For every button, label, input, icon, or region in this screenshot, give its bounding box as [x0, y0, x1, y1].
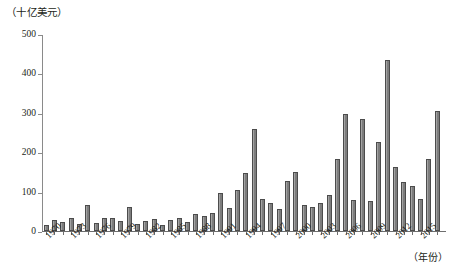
bar-chart: （十亿美元） 0100200300400500 1970197319761979…: [0, 0, 450, 268]
y-tick-label: 400: [22, 70, 36, 80]
bar: [218, 193, 223, 231]
bar-series: [42, 35, 446, 231]
bar: [285, 181, 290, 231]
x-axis-labels: 1970197319761979198219851988199119941997…: [42, 234, 446, 264]
y-tick-label: 0: [31, 227, 36, 237]
y-tick-label: 100: [22, 188, 36, 198]
y-tick: [38, 74, 42, 75]
y-tick: [38, 114, 42, 115]
bar: [376, 142, 381, 231]
bar: [360, 119, 365, 231]
bar: [318, 203, 323, 231]
plot-area: 0100200300400500: [42, 35, 446, 232]
bar: [393, 167, 398, 231]
bar: [368, 201, 373, 231]
bar: [335, 159, 340, 231]
bar: [293, 172, 298, 231]
bar: [435, 111, 440, 231]
y-tick: [38, 153, 42, 154]
unit-caption: （十亿美元）: [6, 4, 68, 19]
y-tick-label: 200: [22, 148, 36, 158]
bar: [243, 173, 248, 231]
y-tick: [38, 232, 42, 233]
y-tick-label: 300: [22, 109, 36, 119]
bar: [418, 199, 423, 231]
y-tick: [38, 35, 42, 36]
bar: [385, 60, 390, 231]
y-tick: [38, 193, 42, 194]
bar: [268, 203, 273, 231]
y-tick-label: 500: [22, 30, 36, 40]
bar: [343, 114, 348, 231]
bar: [252, 129, 257, 231]
x-axis-caption: （年份）: [408, 249, 448, 264]
